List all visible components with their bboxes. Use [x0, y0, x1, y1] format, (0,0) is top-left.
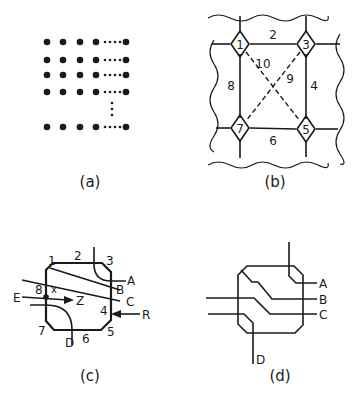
terminal-d: D — [65, 336, 74, 350]
dot — [123, 72, 130, 79]
ellipsis-dot — [114, 74, 117, 77]
label-c-2: 2 — [74, 249, 82, 263]
label-c-5: 5 — [107, 325, 115, 339]
terminal-d-a: A — [319, 277, 328, 291]
wire-d-c — [206, 298, 317, 314]
terminal-d-c: C — [319, 308, 327, 322]
ellipsis-dot — [119, 41, 122, 44]
ellipsis-dot — [109, 41, 112, 44]
dot — [77, 89, 84, 96]
dot — [60, 89, 67, 96]
caption-d: (d) — [269, 367, 290, 385]
ellipsis-dot — [111, 114, 114, 117]
panel-d: A B C D (d) — [206, 242, 328, 385]
dot — [93, 57, 100, 64]
svg-text:3: 3 — [302, 38, 310, 52]
panel-b: 1 3 5 7 2 4 6 8 9 10 (b) — [208, 15, 344, 191]
panel-c: 1 2 3 4 5 6 7 8 x A B C D E R Z (c) — [13, 247, 150, 385]
dot — [44, 89, 51, 96]
label-c-x: x — [51, 284, 57, 295]
figure-canvas: (a) 1 3 — [0, 0, 356, 399]
dot — [44, 72, 51, 79]
arrow-r-icon — [111, 310, 121, 318]
terminal-b: B — [116, 283, 124, 297]
dot — [123, 89, 130, 96]
terminal-c: C — [126, 295, 134, 309]
boundary-right — [336, 34, 344, 164]
terminal-d-d: D — [256, 353, 265, 367]
dot — [93, 72, 100, 79]
dot — [123, 124, 130, 131]
label-diagonal-9: 9 — [286, 72, 294, 86]
label-c-7: 7 — [38, 324, 46, 338]
ellipsis-dot — [114, 59, 117, 62]
ellipsis-dot — [111, 108, 114, 111]
caption-a: (a) — [80, 173, 101, 191]
ellipsis-dot — [104, 74, 107, 77]
dot — [77, 39, 84, 46]
ellipsis-dot — [104, 59, 107, 62]
ellipsis-dot — [109, 59, 112, 62]
node-7: 7 — [231, 115, 249, 141]
panel-a: (a) — [44, 39, 130, 191]
dot — [77, 72, 84, 79]
ellipsis-dot — [109, 74, 112, 77]
svg-text:5: 5 — [302, 123, 310, 137]
wire-d-d — [208, 314, 253, 364]
dot-array — [44, 39, 130, 131]
wire-d-b — [241, 270, 317, 299]
svg-text:1: 1 — [236, 38, 244, 52]
node-5: 5 — [297, 116, 315, 142]
dot — [93, 89, 100, 96]
caption-c: (c) — [80, 367, 100, 385]
boundary-left — [210, 40, 218, 152]
terminal-z: Z — [76, 294, 84, 308]
ellipsis-dot — [119, 59, 122, 62]
label-edge-2: 2 — [269, 28, 277, 42]
ellipsis-dot — [109, 126, 112, 129]
terminal-d-b: B — [319, 293, 327, 307]
label-c-8: 8 — [35, 283, 43, 297]
svg-text:7: 7 — [236, 122, 244, 136]
label-c-1: 1 — [48, 254, 56, 268]
dot — [44, 39, 51, 46]
dot — [77, 124, 84, 131]
label-edge-4: 4 — [310, 79, 318, 93]
junction-x — [43, 294, 49, 300]
label-diagonal-10: 10 — [255, 57, 270, 71]
dot — [123, 39, 130, 46]
boundary-top — [208, 15, 328, 21]
caption-b: (b) — [264, 173, 285, 191]
label-c-4: 4 — [100, 304, 108, 318]
dot — [60, 57, 67, 64]
dot — [60, 124, 67, 131]
ellipsis-dot — [114, 91, 117, 94]
dot — [123, 57, 130, 64]
dot — [44, 124, 51, 131]
dot — [93, 124, 100, 131]
ellipsis-dot — [119, 74, 122, 77]
label-edge-6: 6 — [269, 134, 277, 148]
ellipsis-dot — [114, 41, 117, 44]
edge-6 — [250, 128, 296, 129]
dot — [60, 72, 67, 79]
ellipsis-dot — [119, 91, 122, 94]
label-c-6: 6 — [82, 332, 90, 346]
label-edge-8: 8 — [227, 79, 235, 93]
arrow-z-icon — [64, 296, 74, 304]
dot — [60, 39, 67, 46]
label-c-3: 3 — [106, 254, 114, 268]
ellipsis-dot — [104, 41, 107, 44]
ellipsis-dot — [104, 91, 107, 94]
ellipsis-dot — [119, 126, 122, 129]
terminal-e: E — [13, 291, 21, 305]
ellipsis-dot — [111, 102, 114, 105]
boundary-bottom — [208, 162, 328, 168]
terminal-a: A — [127, 274, 136, 288]
ellipsis-dot — [109, 91, 112, 94]
ellipsis-dot — [114, 126, 117, 129]
terminal-r: R — [142, 308, 150, 322]
dot — [77, 57, 84, 64]
ellipsis-dot — [104, 126, 107, 129]
dot — [44, 57, 51, 64]
